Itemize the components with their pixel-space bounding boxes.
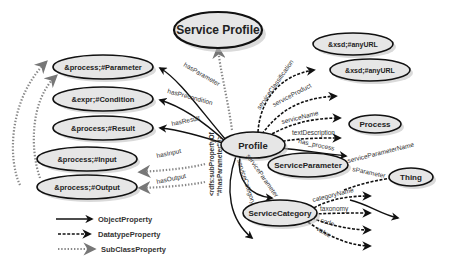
label-has-result: hasResult <box>171 114 201 127</box>
label-has-parameter: hasParameter <box>183 61 223 88</box>
label-text-description: textDescription <box>292 129 335 137</box>
node-result: &process;#Result <box>53 116 156 143</box>
service-category-label: ServiceCategory <box>248 209 312 218</box>
legend-label-datatype: DatatypeProperty <box>98 230 161 239</box>
legend-label-object: ObjectProperty <box>98 215 153 224</box>
service-profile-label: Service Profile <box>176 23 260 37</box>
legend-label-subclass: SubClassProperty <box>101 245 167 254</box>
label-category-name: categoryName <box>312 186 355 204</box>
annotation-line-2: "#hasParameter" /> <box>216 136 223 196</box>
label-s-parameter: sParameter <box>352 165 387 179</box>
node-service-parameter: ServiceParameter <box>268 153 351 180</box>
label-has-input: hasInput <box>156 147 182 160</box>
label-service-parameter-name: serviceParameterName <box>347 141 415 164</box>
input-label: &process;#Input <box>57 155 117 164</box>
node-input: &process;#Input <box>37 147 140 174</box>
label-has-output: hasOutput <box>156 172 187 186</box>
process-label: Process <box>359 120 391 129</box>
thing-label: Thing <box>400 173 422 182</box>
node-service-category: ServiceCategory <box>243 200 320 229</box>
legend-item-datatype-property: DatatypeProperty <box>58 230 161 239</box>
anyurl-2-label: &xsd;#anyURL <box>345 67 396 75</box>
label-value: value <box>316 225 333 239</box>
node-process: Process <box>349 115 404 136</box>
node-parameter: &process;#Parameter <box>53 55 156 82</box>
node-thing: Thing <box>389 168 436 189</box>
parameter-label: &process;#Parameter <box>64 63 142 72</box>
node-anyurl-2: &xsd;#anyURL <box>330 59 413 84</box>
subproperty-annotation: <rdfs:subPropertyOf "#hasParameter" /> <box>208 131 223 196</box>
node-output: &process;#Output <box>37 175 140 202</box>
output-label: &process;#Output <box>54 183 120 192</box>
ontology-diagram: Service Profile Profile &process;#Parame… <box>0 0 450 264</box>
anyurl-1-label: &xsd;#anyURL <box>328 41 379 49</box>
node-condition: &expr;#Condition <box>53 87 156 114</box>
annotation-line-1: <rdfs:subPropertyOf <box>208 131 216 196</box>
service-parameter-label: ServiceParameter <box>274 161 342 170</box>
legend-item-subclass-property: SubClassProperty <box>58 245 167 254</box>
legend: ObjectProperty DatatypeProperty SubClass… <box>56 215 167 254</box>
node-anyurl-1: &xsd;#anyURL <box>313 33 396 58</box>
condition-label: &expr;#Condition <box>72 95 135 104</box>
result-label: &process;#Result <box>71 124 135 133</box>
profile-label: Profile <box>238 140 268 151</box>
legend-item-object-property: ObjectProperty <box>56 215 153 224</box>
label-has-precondition: hasPrecondition <box>167 87 214 106</box>
node-service-profile: Service Profile <box>174 12 266 52</box>
label-taxonomy: taxonomy <box>320 205 349 213</box>
